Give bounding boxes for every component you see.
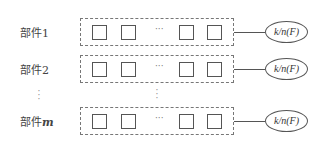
unit-square bbox=[92, 62, 107, 77]
component-label-m: 部件m bbox=[20, 116, 70, 130]
kn-node-1: k/n(F) bbox=[265, 21, 308, 43]
component-label-prefix: 部件 bbox=[20, 27, 42, 40]
unit-square bbox=[179, 25, 194, 40]
horizontal-ellipsis: ··· bbox=[155, 24, 164, 34]
horizontal-ellipsis: ··· bbox=[155, 61, 164, 71]
unit-square bbox=[121, 62, 136, 77]
component-group-1: ··· bbox=[80, 18, 234, 46]
unit-square bbox=[121, 114, 136, 129]
component-label-prefix: 部件 bbox=[20, 116, 42, 129]
component-label-index: m bbox=[42, 116, 54, 129]
component-label-prefix: 部件 bbox=[20, 64, 42, 77]
kn-node-m: k/n(F) bbox=[265, 110, 308, 132]
unit-square bbox=[92, 114, 107, 129]
unit-square bbox=[179, 114, 194, 129]
connector-line bbox=[234, 121, 265, 122]
unit-square bbox=[179, 62, 194, 77]
kn-node-2: k/n(F) bbox=[265, 58, 308, 80]
unit-square bbox=[92, 25, 107, 40]
horizontal-ellipsis: ··· bbox=[155, 113, 164, 123]
component-group-2: ··· bbox=[80, 55, 234, 83]
unit-square bbox=[207, 114, 222, 129]
component-label-2: 部件2 bbox=[20, 64, 70, 78]
connector-line bbox=[234, 69, 265, 70]
vertical-ellipsis-center: ··· bbox=[154, 88, 160, 100]
component-label-1: 部件1 bbox=[20, 27, 70, 41]
unit-square bbox=[121, 25, 136, 40]
component-group-m: ··· bbox=[80, 107, 234, 135]
vertical-ellipsis-left: ··· bbox=[36, 89, 42, 101]
unit-square bbox=[207, 62, 222, 77]
component-label-index: 2 bbox=[42, 64, 49, 77]
unit-square bbox=[207, 25, 222, 40]
connector-line bbox=[234, 32, 265, 33]
component-label-index: 1 bbox=[42, 27, 49, 40]
